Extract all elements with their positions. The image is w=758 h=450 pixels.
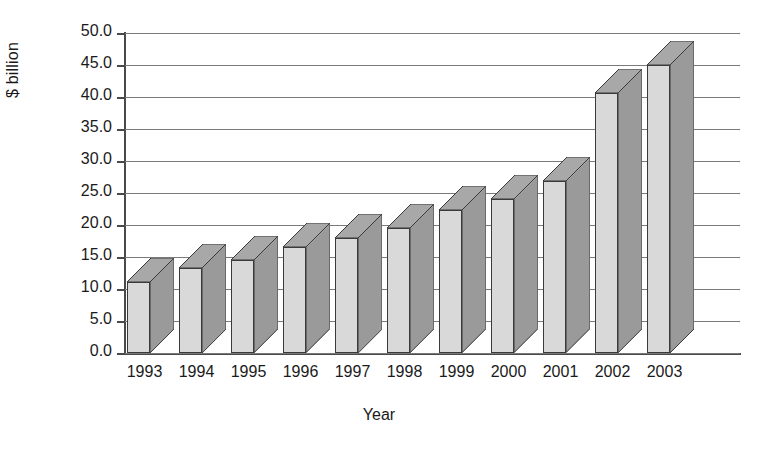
bar-top-face (543, 157, 591, 182)
y-tick-mark (117, 353, 125, 355)
bar-1998 (387, 204, 434, 353)
bar-front-face (595, 93, 618, 353)
y-tick-label: 50.0 (46, 22, 112, 40)
y-tick-label: 30.0 (46, 150, 112, 168)
bar-top-face (439, 186, 487, 211)
y-tick-mark (117, 33, 125, 35)
bar-front-face (283, 247, 306, 353)
bar-front-face (231, 260, 254, 353)
bar-front-face (179, 268, 202, 353)
y-tick-mark (117, 161, 125, 163)
y-tick-label: 40.0 (46, 86, 112, 104)
bar-top-face (127, 258, 175, 283)
bar-top-face (491, 175, 539, 200)
bar-front-face (127, 282, 150, 353)
bar-front-face (335, 238, 358, 353)
bar-top-face (283, 223, 331, 248)
bar-front-face (439, 210, 462, 353)
y-tick-mark (117, 65, 125, 67)
x-axis-title: Year (0, 406, 758, 424)
bar-1999 (439, 186, 486, 353)
gridline (125, 33, 740, 34)
bar-top-face (647, 41, 695, 66)
bar-1997 (335, 214, 382, 353)
bar-front-face (491, 199, 514, 353)
bar-chart: $ billion 0.05.010.015.020.025.030.035.0… (0, 0, 758, 450)
y-tick-label: 35.0 (46, 118, 112, 136)
y-tick-mark (117, 225, 125, 227)
bar-top-face (335, 214, 383, 239)
bar-2002 (595, 69, 642, 353)
y-tick-mark (117, 97, 125, 99)
y-tick-mark (117, 193, 125, 195)
bar-top-face (179, 244, 227, 269)
bar-1993 (127, 258, 174, 353)
bar-top-face (387, 204, 435, 229)
y-tick-label: 0.0 (46, 342, 112, 360)
y-tick-label: 5.0 (46, 310, 112, 328)
y-tick-label: 45.0 (46, 54, 112, 72)
bar-2000 (491, 175, 538, 353)
y-tick-label: 20.0 (46, 214, 112, 232)
x-tick-label: 2003 (630, 363, 700, 381)
y-tick-label: 10.0 (46, 278, 112, 296)
bar-1994 (179, 244, 226, 353)
y-tick-label: 25.0 (46, 182, 112, 200)
y-tick-mark (117, 321, 125, 323)
gridline (125, 353, 740, 354)
bar-1996 (283, 223, 330, 353)
bar-2003 (647, 41, 694, 353)
bar-front-face (543, 181, 566, 353)
y-axis-title: $ billion (4, 10, 22, 130)
y-tick-label: 15.0 (46, 246, 112, 264)
y-tick-mark (117, 289, 125, 291)
y-tick-mark (117, 257, 125, 259)
bar-1995 (231, 236, 278, 353)
bar-2001 (543, 157, 590, 353)
bar-front-face (387, 228, 410, 353)
bar-top-face (595, 69, 643, 94)
bar-top-face (231, 236, 279, 261)
bar-front-face (647, 65, 670, 353)
y-tick-mark (117, 129, 125, 131)
